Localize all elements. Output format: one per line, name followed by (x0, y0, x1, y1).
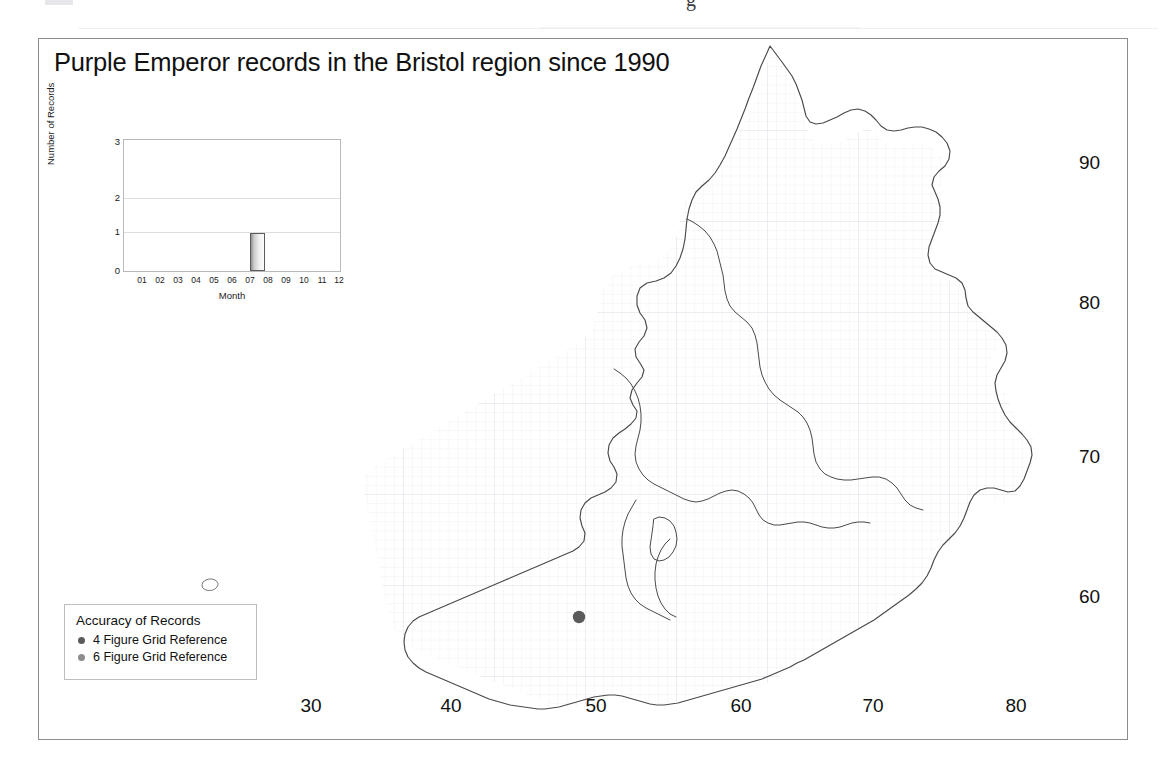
chart-ylabel: Number of Records (45, 83, 56, 165)
chart-xtick-11: 11 (318, 275, 327, 285)
chart-ytick-3: 3 (115, 137, 120, 147)
island-steep-holm (202, 579, 218, 591)
chart-xtick-08: 08 (263, 275, 272, 285)
chart-xtick-12: 12 (334, 275, 343, 285)
map-ytick-70: 70 (1079, 446, 1100, 468)
chart-xtick-02: 02 (155, 275, 164, 285)
map-xtick-80: 80 (1005, 695, 1026, 717)
legend-dot-4-figure (78, 637, 85, 644)
inset-bar-chart: Number of Records 3 2 1 0 01 02 03 04 05… (59, 133, 349, 313)
chart-xtick-09: 09 (281, 275, 290, 285)
map-xtick-50: 50 (585, 695, 606, 717)
chart-ytick-2: 2 (115, 193, 120, 203)
page-header-glyph: g (686, 0, 696, 11)
chart-gridline-1 (124, 232, 340, 233)
map-xtick-60: 60 (730, 695, 751, 717)
chart-xtick-10: 10 (299, 275, 308, 285)
chart-xtick-03: 03 (173, 275, 182, 285)
figure-frame: Purple Emperor records in the Bristol re… (38, 38, 1128, 740)
legend-dot-6-figure (78, 654, 85, 661)
scan-artifact-blob (45, 0, 73, 5)
legend-label-4-figure: 4 Figure Grid Reference (93, 633, 227, 647)
chart-ytick-1: 1 (115, 228, 120, 238)
chart-xtick-06: 06 (227, 275, 236, 285)
map-ytick-90: 90 (1079, 152, 1100, 174)
chart-gridline-2 (124, 198, 340, 199)
legend-label-6-figure: 6 Figure Grid Reference (93, 650, 227, 664)
map-xtick-40: 40 (440, 695, 461, 717)
legend-item-6-figure[interactable]: 6 Figure Grid Reference (75, 650, 246, 664)
scan-artifact-rule-secondary (540, 27, 860, 29)
legend-title: Accuracy of Records (76, 613, 246, 628)
chart-ytick-0: 0 (115, 266, 120, 276)
legend-item-4-figure[interactable]: 4 Figure Grid Reference (75, 633, 246, 647)
chart-xtick-07: 07 (245, 275, 254, 285)
chart-xtick-05: 05 (209, 275, 218, 285)
chart-xtick-04: 04 (191, 275, 200, 285)
chart-plot-area: 3 2 1 0 01 02 03 04 05 06 07 08 09 10 11… (123, 139, 341, 272)
record-point-1 (573, 611, 585, 623)
map-xtick-70: 70 (862, 695, 883, 717)
map-ytick-60: 60 (1079, 586, 1100, 608)
chart-bar-08[interactable] (250, 233, 265, 272)
chart-xtick-01: 01 (137, 275, 146, 285)
chart-xlabel: Month (219, 290, 245, 301)
map-legend: Accuracy of Records 4 Figure Grid Refere… (64, 604, 257, 680)
map-xtick-30: 30 (300, 695, 321, 717)
map-ytick-80: 80 (1079, 292, 1100, 314)
